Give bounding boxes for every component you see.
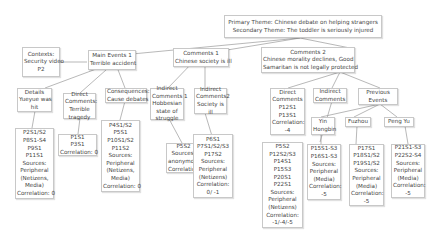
- node-text: Media): [17, 182, 52, 190]
- node-text: (Media): [393, 175, 423, 183]
- node-text: (Netizens,: [17, 175, 52, 183]
- node-text: P13S1: [272, 112, 303, 120]
- node-text: Consequences:: [107, 88, 145, 96]
- node-text: P15S1-S3: [309, 145, 339, 153]
- node-fuzhou-sources: P17S1 P18S1/S2 P19S1/S2 Sources: Periphe…: [349, 144, 384, 206]
- node-text: Sources:: [17, 160, 52, 168]
- node-text: Sources:: [264, 189, 301, 197]
- node-text: tragedy: [65, 114, 94, 122]
- node-text: Main Events 1: [90, 52, 134, 60]
- node-text: P10S1/S2: [103, 137, 138, 145]
- node-text: P8S1-S4: [17, 137, 52, 145]
- node-text: Contexts:: [24, 51, 58, 59]
- node-indirect-comments-1: Indirect Comments 1 Hobbesian state of s…: [150, 88, 184, 120]
- node-text: Indirect: [315, 88, 345, 96]
- node-text: Comments: [272, 96, 303, 104]
- node-text: Comments2: [196, 93, 225, 101]
- node-text: Yueyue was: [19, 96, 50, 104]
- node-text: Events: [360, 97, 396, 105]
- node-text: P7S1/S2/S3: [195, 143, 231, 151]
- node-text: Yin: [313, 118, 333, 126]
- node-details-sources: P2S1/S2 P8S1-S4 P9S1 P11S1 Sources: Peri…: [15, 128, 54, 199]
- node-text: Hobbesian: [152, 100, 182, 108]
- node-text: Correlation:: [195, 181, 231, 189]
- node-text: Comments: [315, 96, 345, 104]
- node-text: Sources:: [103, 152, 138, 160]
- node-text: Sources:: [195, 158, 231, 166]
- node-fuzhou: Fuzhou: [345, 117, 371, 127]
- node-text: Direct: [272, 89, 303, 97]
- node-text: hit: [19, 104, 50, 112]
- node-yin-hongbin-sources: P15S1-S3 P16S1-S3 Sources: Peripheral (M…: [307, 144, 341, 200]
- node-direct-comments-terrible-tragedy: Direct Comments: Terrible tragedy: [63, 93, 96, 119]
- node-text: Comments 1: [152, 93, 182, 101]
- node-text: -5: [351, 198, 382, 206]
- node-text: P16S1-S3: [309, 153, 339, 161]
- node-text: Fuzhou: [347, 118, 369, 126]
- node-text: Comments:: [65, 98, 94, 106]
- node-text: P9S1: [17, 145, 52, 153]
- node-text: P14S1: [264, 158, 301, 166]
- node-text: P15S3: [264, 166, 301, 174]
- node-text: Sources:: [351, 167, 382, 175]
- node-text: Hongbin: [313, 126, 333, 134]
- node-text: Correlation: 0: [17, 190, 52, 198]
- node-text: Peripheral: [195, 166, 231, 174]
- node-direct-comments-2: Direct Comments P12S1 P13S1 Correlation:…: [270, 88, 305, 135]
- node-text: (Netizens,: [103, 167, 138, 175]
- node-main-events: Main Events 1 Terrible accident: [88, 50, 136, 70]
- node-text: Terrible accident: [90, 60, 134, 68]
- node-consequences: Consequences: Cause debates: [105, 88, 147, 103]
- node-text: P22S2-S4: [393, 152, 423, 160]
- node-text: P17S2: [195, 151, 231, 159]
- node-text: Details: [19, 89, 50, 97]
- node-text: Comments 2: [263, 49, 353, 57]
- node-text: P17S1: [351, 145, 382, 153]
- node-text: Indirect: [152, 85, 182, 93]
- node-text: P5S2: [264, 143, 301, 151]
- node-text: P20S1: [264, 174, 301, 182]
- node-text: (Media): [309, 176, 339, 184]
- node-text: Security video: [24, 58, 58, 66]
- node-text: P6S1: [195, 136, 231, 144]
- node-text: P19S1/S2: [351, 160, 382, 168]
- node-text: P5S1: [103, 129, 138, 137]
- node-text: Peripheral: [393, 167, 423, 175]
- node-text: state of: [152, 108, 182, 116]
- node-text: P21S1-S3: [393, 144, 423, 152]
- node-text: Correlation:: [393, 182, 423, 190]
- node-text: Sources:: [309, 161, 339, 169]
- node-text: -1/-4/-5: [264, 219, 301, 227]
- node-peng-yu: Peng Yu: [384, 117, 414, 127]
- node-text: Peng Yu: [386, 118, 412, 126]
- node-details: Details Yueyue was hit: [17, 88, 52, 112]
- node-text: P22S1: [264, 181, 301, 189]
- node-text: ill: [196, 109, 225, 117]
- node-text: Peripheral: [264, 196, 301, 204]
- node-text: Peripheral: [103, 160, 138, 168]
- node-text: Samaritan is not legally protected: [263, 64, 353, 72]
- node-text: P18S1/S2: [351, 152, 382, 160]
- node-text: Comments 1: [175, 50, 227, 58]
- node-text: P3S1: [60, 141, 95, 149]
- node-text: Cause debates: [107, 96, 145, 104]
- node-text: P4S1/S2: [103, 122, 138, 130]
- node-text: P2S1/S2: [17, 129, 52, 137]
- node-text: (Netizens): [264, 204, 301, 212]
- node-text: Correlation:: [272, 119, 303, 127]
- node-text: Sources:: [393, 160, 423, 168]
- node-yin-hongbin: Yin Hongbin: [311, 117, 335, 135]
- node-text: Correlation: 0: [60, 149, 95, 157]
- node-text: Correlation:: [351, 190, 382, 198]
- primary-theme-text: Primary Theme: Chinese debate on helping…: [226, 19, 380, 27]
- node-text: 0/ -1: [195, 189, 231, 197]
- root-node-primary-theme: Primary Theme: Chinese debate on helping…: [224, 15, 382, 38]
- node-consequences-sources: P4S1/S2 P5S1 P10S1/S2 P11S2 Sources: Per…: [101, 120, 140, 192]
- node-text: Correlation:: [264, 212, 301, 220]
- node-indirect-comments-c2: Indirect Comments: [313, 88, 347, 103]
- node-text: Peripheral: [351, 175, 382, 183]
- node-text: (Media): [351, 183, 382, 191]
- node-direct-comments-sources: P1S1 P3S1 Correlation: 0: [58, 134, 97, 156]
- node-text: P12S1: [272, 104, 303, 112]
- node-text: Terrible: [65, 106, 94, 114]
